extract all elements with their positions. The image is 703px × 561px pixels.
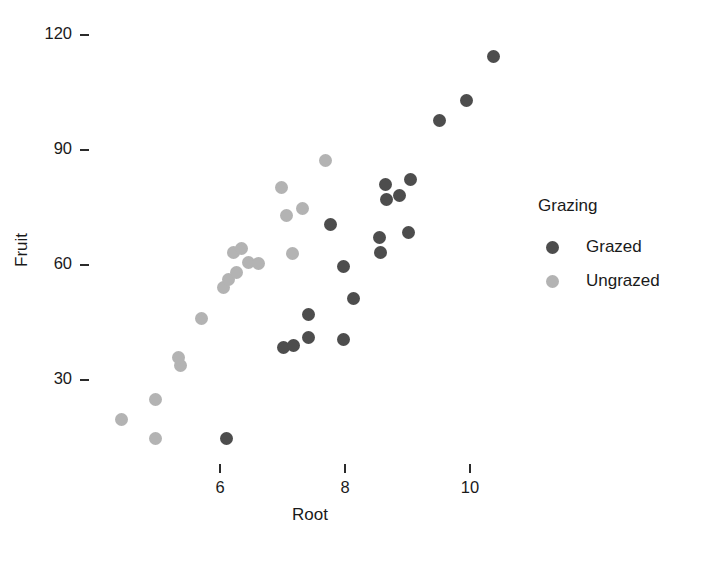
data-point-grazed — [302, 331, 315, 344]
data-point-ungrazed — [286, 247, 299, 260]
x-tick-mark — [344, 464, 346, 473]
data-point-grazed — [487, 50, 500, 63]
data-point-grazed — [373, 231, 386, 244]
data-point-grazed — [287, 339, 300, 352]
legend-item-label: Grazed — [586, 237, 642, 257]
plot-panel — [95, 30, 525, 460]
x-tick-label: 10 — [450, 478, 490, 497]
y-tick-label: 120 — [30, 24, 72, 43]
y-tick-mark — [80, 264, 89, 266]
data-point-ungrazed — [296, 202, 309, 215]
y-tick-mark — [80, 379, 89, 381]
data-point-ungrazed — [115, 413, 128, 426]
legend-key-dot-icon — [546, 275, 559, 288]
x-tick-label: 6 — [200, 478, 240, 497]
scatter-plot-figure: 3060901206810 Root Fruit Grazing GrazedU… — [0, 0, 703, 561]
data-point-grazed — [404, 173, 417, 186]
data-point-ungrazed — [149, 393, 162, 406]
data-point-grazed — [220, 432, 233, 445]
data-point-grazed — [402, 226, 415, 239]
x-tick-label: 8 — [325, 478, 365, 497]
data-point-ungrazed — [235, 242, 248, 255]
data-point-grazed — [433, 114, 446, 127]
data-point-ungrazed — [280, 209, 293, 222]
data-point-grazed — [337, 333, 350, 346]
data-point-ungrazed — [172, 351, 185, 364]
data-point-ungrazed — [275, 181, 288, 194]
data-point-grazed — [374, 246, 387, 259]
data-point-ungrazed — [230, 266, 243, 279]
y-tick-label: 90 — [30, 139, 72, 158]
x-tick-mark — [469, 464, 471, 473]
y-tick-mark — [80, 34, 89, 36]
legend-title: Grazing — [538, 196, 698, 216]
data-point-grazed — [337, 260, 350, 273]
data-point-grazed — [393, 189, 406, 202]
y-tick-label: 30 — [30, 369, 72, 388]
data-point-grazed — [302, 308, 315, 321]
data-point-grazed — [379, 178, 392, 191]
y-axis-label: Fruit — [12, 210, 32, 290]
data-point-grazed — [347, 292, 360, 305]
data-point-ungrazed — [319, 154, 332, 167]
legend-item-label: Ungrazed — [586, 271, 660, 291]
legend: Grazing GrazedUngrazed — [538, 196, 698, 298]
legend-item-grazed[interactable]: Grazed — [546, 230, 698, 264]
legend-key-dot-icon — [546, 241, 559, 254]
legend-entries: GrazedUngrazed — [538, 230, 698, 298]
y-tick-label: 60 — [30, 254, 72, 273]
x-tick-mark — [219, 464, 221, 473]
data-point-grazed — [460, 94, 473, 107]
legend-item-ungrazed[interactable]: Ungrazed — [546, 264, 698, 298]
data-point-ungrazed — [252, 257, 265, 270]
data-point-grazed — [380, 193, 393, 206]
x-axis-label: Root — [0, 505, 620, 525]
data-point-ungrazed — [195, 312, 208, 325]
data-point-ungrazed — [149, 432, 162, 445]
data-point-grazed — [324, 218, 337, 231]
y-tick-mark — [80, 149, 89, 151]
